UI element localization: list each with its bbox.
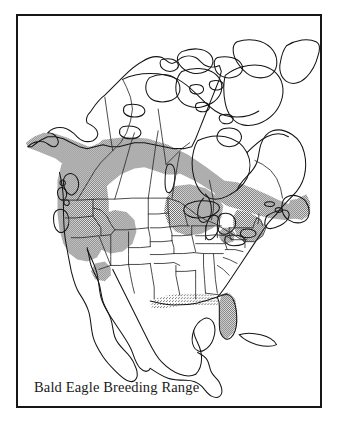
- border-ms-al: [204, 254, 206, 294]
- breeding-range-shading: [26, 133, 310, 339]
- border-az-nm: [129, 264, 135, 293]
- border-ia-ne: [170, 227, 172, 241]
- outline-arctic-islet-1: [209, 81, 223, 90]
- outline-banks-island: [146, 74, 180, 101]
- border-co-nm: [129, 263, 151, 264]
- range-gulf-coast: [150, 293, 219, 309]
- border-ar-la: [176, 270, 196, 271]
- border-mo-ks: [172, 241, 174, 254]
- outline-ellesmere: [233, 40, 277, 78]
- border-al-ga: [213, 254, 217, 294]
- outline-greenland-edge: [280, 40, 320, 84]
- border-ks-ok: [150, 254, 174, 255]
- border-sc-ga: [217, 265, 229, 275]
- outline-cuba: [239, 333, 277, 346]
- border-mo-ar: [174, 253, 194, 254]
- outline-yucatan: [192, 318, 215, 351]
- border-ut-az: [111, 264, 129, 265]
- outline-great-slave-lake: [120, 126, 141, 139]
- border-nm-tx: [150, 263, 154, 299]
- outline-ungava: [247, 134, 288, 153]
- bald-eagle-range-figure: Bald Eagle Breeding Range: [0, 0, 341, 426]
- border-ok-tx: [154, 262, 180, 265]
- outline-devon-island: [214, 57, 243, 78]
- north-america-map: [18, 16, 320, 406]
- outline-victoria-island: [176, 68, 222, 107]
- border-wy-co: [129, 247, 151, 248]
- outline-melville-island: [177, 49, 213, 74]
- border-wy-sd: [148, 228, 150, 247]
- outline-canada-north-coast: [123, 73, 259, 117]
- map-caption: Bald Eagle Breeding Range: [34, 378, 199, 397]
- border-sd-ne: [150, 227, 170, 228]
- outline-prince-patrick: [160, 59, 178, 72]
- outline-great-bear-lake: [123, 104, 144, 117]
- border-va-nc: [225, 250, 243, 252]
- border-nc-sc: [223, 258, 237, 264]
- border-tn-south: [194, 253, 224, 254]
- border-ne-ks: [150, 241, 172, 242]
- map-frame: [16, 14, 322, 408]
- border-tx-la: [176, 265, 180, 295]
